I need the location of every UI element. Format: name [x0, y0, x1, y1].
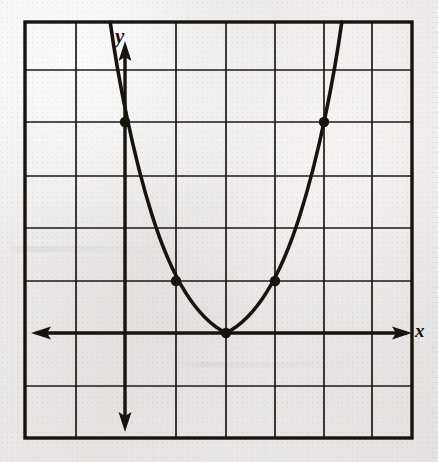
point-marker-vertex: [221, 328, 231, 338]
point-marker: [120, 117, 130, 127]
figure-page: y x: [0, 0, 438, 462]
point-marker: [270, 276, 280, 286]
coordinate-plane-svg: [0, 0, 438, 462]
point-marker: [171, 276, 181, 286]
grid-border: [25, 22, 412, 438]
x-axis-label: x: [415, 321, 425, 340]
graph-figure: [0, 0, 438, 462]
point-marker: [319, 117, 329, 127]
y-axis-label: y: [115, 26, 124, 47]
grid-lines: [25, 22, 412, 438]
